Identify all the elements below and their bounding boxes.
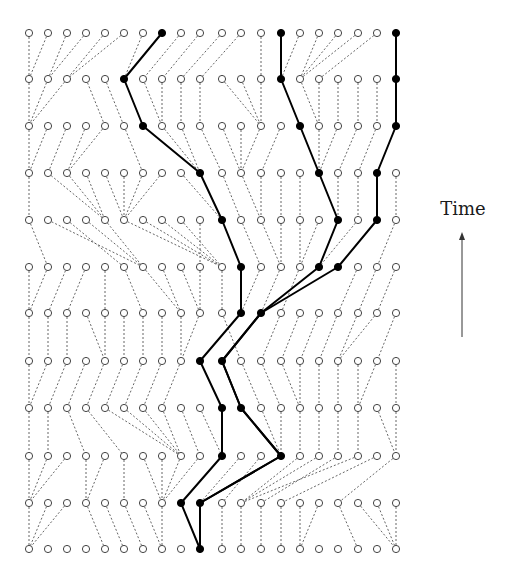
parent-edge: [143, 456, 162, 503]
parent-edge: [105, 173, 124, 220]
individual-node: [296, 75, 303, 82]
individual-node: [296, 216, 303, 223]
ancestor-node: [237, 263, 244, 270]
parent-edge: [200, 33, 241, 79]
individual-node: [120, 29, 127, 36]
individual-node: [101, 309, 108, 316]
ancestor-node: [196, 499, 203, 506]
individual-node: [44, 169, 51, 176]
individual-node: [101, 122, 108, 129]
parent-edge: [67, 220, 124, 267]
parent-edge: [281, 456, 377, 503]
individual-node: [277, 309, 284, 316]
individual-node: [158, 169, 165, 176]
parent-edge: [67, 173, 105, 220]
individual-node: [277, 545, 284, 552]
individual-node: [25, 357, 32, 364]
individual-node: [296, 263, 303, 270]
individual-node: [101, 357, 108, 364]
parent-edge: [338, 126, 358, 173]
individual-node: [257, 75, 264, 82]
individual-node: [82, 216, 89, 223]
parent-edge: [358, 267, 377, 313]
individual-node: [120, 357, 127, 364]
individual-node: [196, 263, 203, 270]
parent-edge: [29, 33, 48, 79]
individual-node: [44, 75, 51, 82]
individual-node: [44, 452, 51, 459]
lineage-path: [124, 33, 241, 549]
individual-node: [82, 75, 89, 82]
individual-node: [296, 452, 303, 459]
parent-edge: [67, 361, 86, 408]
individual-node: [354, 75, 361, 82]
individual-node: [392, 499, 399, 506]
parent-edge: [338, 503, 358, 549]
ancestor-node: [392, 75, 399, 82]
parent-edge: [29, 79, 48, 126]
individual-nodes: [25, 29, 399, 552]
parent-edge: [105, 79, 124, 126]
parent-edge: [48, 126, 67, 173]
individual-node: [354, 122, 361, 129]
parent-edge: [300, 33, 338, 79]
individual-node: [139, 216, 146, 223]
parent-edge: [48, 173, 105, 220]
parent-edge: [86, 456, 105, 503]
individual-node: [101, 169, 108, 176]
individual-node: [392, 309, 399, 316]
parent-edge: [124, 173, 162, 220]
individual-node: [296, 404, 303, 411]
parent-edge: [29, 503, 67, 549]
parent-edge: [300, 503, 319, 549]
ancestry-edges: [29, 33, 396, 549]
parent-edge: [124, 173, 143, 220]
individual-node: [82, 499, 89, 506]
individual-node: [101, 452, 108, 459]
individual-node: [82, 29, 89, 36]
individual-node: [296, 169, 303, 176]
individual-node: [373, 122, 380, 129]
parent-edge: [143, 503, 162, 549]
individual-node: [257, 216, 264, 223]
individual-node: [158, 545, 165, 552]
individual-node: [237, 169, 244, 176]
parent-edge: [181, 408, 200, 456]
individual-node: [315, 452, 322, 459]
individual-node: [63, 29, 70, 36]
individual-node: [120, 263, 127, 270]
individual-node: [218, 29, 225, 36]
individual-node: [177, 357, 184, 364]
ancestor-node: [218, 357, 225, 364]
individual-node: [277, 169, 284, 176]
individual-node: [257, 122, 264, 129]
individual-node: [373, 309, 380, 316]
parent-edge: [241, 173, 261, 220]
individual-node: [158, 75, 165, 82]
individual-node: [82, 263, 89, 270]
individual-node: [218, 75, 225, 82]
individual-node: [82, 122, 89, 129]
individual-node: [139, 499, 146, 506]
individual-node: [25, 169, 32, 176]
individual-node: [392, 404, 399, 411]
parent-edge: [261, 456, 338, 503]
parent-edge: [281, 33, 300, 79]
individual-node: [177, 263, 184, 270]
individual-node: [315, 309, 322, 316]
individual-node: [158, 309, 165, 316]
individual-node: [25, 75, 32, 82]
parent-edge: [86, 361, 105, 408]
individual-node: [218, 545, 225, 552]
individual-node: [334, 404, 341, 411]
parent-edge: [124, 361, 143, 408]
individual-node: [196, 404, 203, 411]
individual-node: [237, 545, 244, 552]
parent-edge: [319, 33, 377, 79]
parent-edge: [29, 456, 67, 503]
parent-edge: [67, 33, 124, 79]
individual-node: [44, 216, 51, 223]
parent-edge: [124, 267, 143, 313]
parent-edge: [124, 408, 181, 456]
ancestor-node: [277, 29, 284, 36]
